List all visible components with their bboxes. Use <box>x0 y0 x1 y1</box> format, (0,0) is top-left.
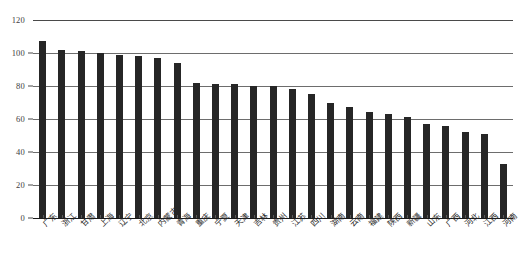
bar <box>193 83 200 218</box>
y-tick-label: 80 <box>16 81 25 91</box>
bar <box>116 55 123 218</box>
bar <box>404 117 411 218</box>
bar <box>385 114 392 218</box>
bar-chart: 020406080100120 广东浙江甘肃上海辽宁北京内蒙古青海重庆宁夏天津吉… <box>0 0 523 264</box>
bar <box>270 86 277 218</box>
y-tick-label: 40 <box>16 147 25 157</box>
bar <box>423 124 430 218</box>
y-axis: 020406080100120 <box>0 20 33 218</box>
bar <box>327 103 334 219</box>
bar <box>97 53 104 218</box>
x-axis-labels: 广东浙江甘肃上海辽宁北京内蒙古青海重庆宁夏天津吉林贵州江苏四川湖南云南福建陕西新… <box>33 219 513 264</box>
bar <box>212 84 219 218</box>
bar <box>289 89 296 218</box>
bar <box>174 63 181 218</box>
y-tick-label: 100 <box>12 48 25 58</box>
bar <box>366 112 373 218</box>
y-tick-label: 60 <box>16 114 25 124</box>
plot-area <box>33 20 513 218</box>
bar <box>39 41 46 218</box>
bars-layer <box>33 20 513 218</box>
bar <box>58 50 65 218</box>
y-tick-label: 120 <box>12 15 25 25</box>
bar <box>154 58 161 218</box>
bar <box>135 56 142 218</box>
bar <box>250 86 257 218</box>
bar <box>442 126 449 218</box>
bar <box>78 51 85 218</box>
bar <box>481 134 488 218</box>
y-tick-label: 0 <box>21 213 25 223</box>
bar <box>462 132 469 218</box>
bar <box>308 94 315 218</box>
y-tick-label: 20 <box>16 180 25 190</box>
bar <box>346 107 353 218</box>
bar <box>500 164 507 218</box>
bar <box>231 84 238 218</box>
